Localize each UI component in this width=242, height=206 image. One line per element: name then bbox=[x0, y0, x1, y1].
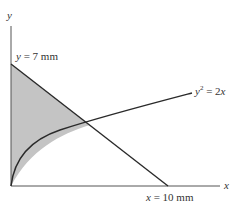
diagram-canvas bbox=[0, 0, 242, 206]
y-intercept-label: y = 7 mm bbox=[16, 50, 58, 62]
curve-equation-label: y2 = 2x bbox=[195, 84, 226, 97]
x-intercept-label: x = 10 mm bbox=[146, 191, 193, 203]
x-axis-label: x bbox=[224, 179, 229, 191]
y-axis-label: y bbox=[7, 9, 12, 21]
